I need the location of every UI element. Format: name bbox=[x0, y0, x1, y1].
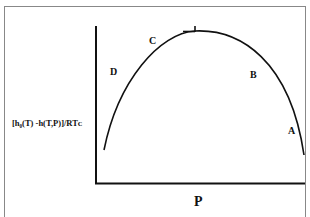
y-axis-label: [h₀(T) -h(T,P)]/RTᴄ bbox=[12, 118, 82, 128]
curve bbox=[104, 31, 304, 155]
point-label-a: A bbox=[288, 126, 295, 136]
point-label-b: B bbox=[250, 70, 257, 80]
diagram-canvas bbox=[0, 0, 310, 217]
x-axis-label: P bbox=[194, 194, 203, 210]
point-label-c: C bbox=[149, 36, 156, 46]
point-label-d: D bbox=[110, 67, 117, 77]
